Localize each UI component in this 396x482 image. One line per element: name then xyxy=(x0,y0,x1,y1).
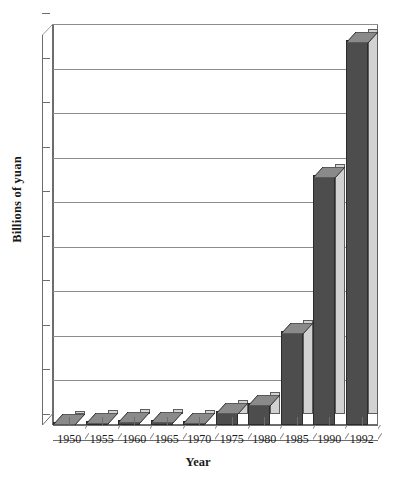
bar-front-face xyxy=(346,40,368,425)
gridline xyxy=(53,69,378,70)
bar-1970 xyxy=(183,410,205,425)
bar-front-face xyxy=(248,403,270,425)
bar-top-face xyxy=(313,164,345,175)
plot-area: 0100200300400500600700800900 xyxy=(53,24,378,425)
bar-1950 xyxy=(53,411,75,425)
gridline xyxy=(53,158,378,159)
y-tick-mark xyxy=(42,13,50,14)
bar-front-face xyxy=(313,175,335,425)
x-tick-mark xyxy=(297,417,298,425)
bar-1955 xyxy=(86,410,108,425)
bar-1992 xyxy=(346,29,368,425)
x-tick-mark xyxy=(199,417,200,425)
x-tick-mark xyxy=(362,417,363,425)
x-axis-title: Year xyxy=(0,455,396,470)
bar-chart: Billions of yuan 01002003004005006007008… xyxy=(0,0,396,482)
bar-1985 xyxy=(281,320,303,425)
bar-top-face xyxy=(248,392,280,403)
bar-top-face xyxy=(346,29,378,40)
bar-1960 xyxy=(118,409,140,425)
x-tick-mark xyxy=(264,417,265,425)
x-tick-mark xyxy=(69,417,70,425)
bar-1990 xyxy=(313,164,335,425)
bar-1975 xyxy=(216,400,238,425)
x-tick-mark xyxy=(167,417,168,425)
left-wall-depth xyxy=(42,24,53,425)
bar-top-face xyxy=(216,400,248,411)
x-tick-mark xyxy=(329,417,330,425)
gridline xyxy=(53,113,378,114)
bar-front-face xyxy=(281,331,303,425)
bar-1965 xyxy=(151,409,173,425)
gridline xyxy=(53,24,378,25)
x-tick-mark xyxy=(102,417,103,425)
x-tick-mark xyxy=(134,417,135,425)
bar-1980 xyxy=(248,392,270,425)
bar-side-face xyxy=(303,320,313,414)
bar-side-face xyxy=(335,164,345,414)
y-axis-title: Billions of yuan xyxy=(10,135,25,265)
clipped-chart-title xyxy=(10,0,350,3)
bar-top-face xyxy=(281,320,313,331)
bar-side-face xyxy=(368,29,378,414)
x-tick-mark xyxy=(232,417,233,425)
x-tick-label: 1992 xyxy=(332,432,392,447)
